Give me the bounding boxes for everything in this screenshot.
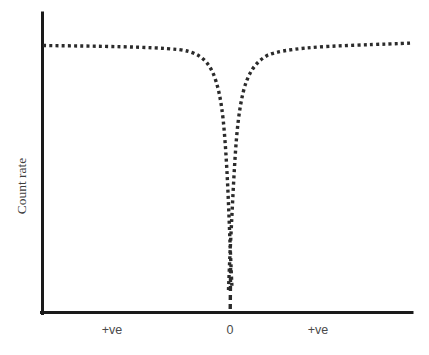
x-tick-label-right: +ve xyxy=(308,323,329,337)
y-axis-title: Count rate xyxy=(14,158,29,215)
x-tick-label-left: +ve xyxy=(102,323,123,337)
chart-background xyxy=(0,0,429,355)
x-tick-label-zero: 0 xyxy=(227,323,234,337)
count-rate-dip-chart: +ve 0 +ve Count rate xyxy=(0,0,429,355)
